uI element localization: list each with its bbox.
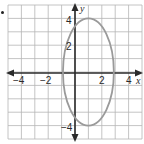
y-axis-down-arrow-icon bbox=[72, 134, 79, 142]
axes bbox=[6, 3, 143, 142]
coordinate-plane: y x −4 −2 2 4 4 2 −4 bbox=[0, 0, 144, 144]
y-tick-label-neg4: −4 bbox=[61, 122, 73, 133]
x-axis-label: x bbox=[135, 75, 141, 86]
y-axis-label: y bbox=[79, 3, 85, 14]
y-tick-label-2: 2 bbox=[66, 41, 72, 52]
x-tick-label-2: 2 bbox=[99, 75, 105, 86]
x-tick-label-4: 4 bbox=[126, 75, 132, 86]
y-tick-label-4: 4 bbox=[66, 15, 72, 26]
y-axis-up-arrow-icon bbox=[72, 3, 79, 11]
x-tick-label-neg2: −2 bbox=[40, 75, 52, 86]
x-tick-label-neg4: −4 bbox=[13, 75, 25, 86]
